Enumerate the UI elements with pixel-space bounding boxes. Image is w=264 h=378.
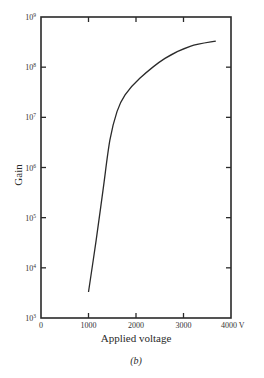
y-axis-ticks: 103104105106107108109 [25, 12, 231, 323]
x-tick-label: 2000 [128, 321, 144, 330]
plot-frame [41, 17, 231, 318]
y-tick-label: 105 [25, 213, 36, 223]
gain-vs-voltage-chart: 103104105106107108109 01000200030004000 … [0, 0, 264, 378]
y-tick-label: 104 [25, 263, 36, 273]
y-tick-label: 109 [25, 12, 36, 22]
x-tick-label: 3000 [176, 321, 192, 330]
figure-caption: (b) [130, 355, 142, 367]
x-tick-label: 4000 V [221, 321, 245, 330]
x-axis-ticks: 01000200030004000 V [39, 17, 245, 330]
x-tick-label: 1000 [81, 321, 97, 330]
x-tick-label: 0 [39, 321, 43, 330]
y-tick-label: 106 [25, 163, 36, 173]
y-tick-label: 107 [25, 112, 36, 122]
gain-curve [89, 41, 216, 292]
y-tick-label: 103 [25, 313, 36, 323]
y-axis-label: Gain [12, 164, 24, 186]
x-axis-label: Applied voltage [101, 332, 172, 344]
y-tick-label: 108 [25, 62, 36, 72]
